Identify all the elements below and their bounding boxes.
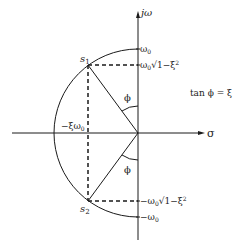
s2-label: s2 <box>80 203 90 216</box>
neg-omega0-label: −ω0 <box>140 212 159 223</box>
damped-upper-label: ω0√1−ξ2 <box>140 59 179 71</box>
angle-upper-label: ϕ <box>124 92 131 103</box>
angle-lower-label: ϕ <box>124 164 131 175</box>
damped-lower-label: −ω0√1−ξ2 <box>140 195 187 207</box>
s1-label: s1 <box>80 53 90 66</box>
real-axis-arrow-icon <box>198 131 205 135</box>
angle-arc-upper <box>122 106 138 111</box>
imaginary-axis-arrow-icon <box>136 11 140 18</box>
s-plane-diagram: jω σ s1 s2 ω0 ω0√1−ξ2 −ω0√1−ξ2 −ω0 −ξω0 … <box>0 0 234 249</box>
damping-equation: tan ϕ = ξ <box>190 88 232 98</box>
omega0-label: ω0 <box>140 44 151 55</box>
imaginary-axis-label: jω <box>139 7 152 18</box>
angle-arc-lower <box>122 155 138 160</box>
real-part-label: −ξω0 <box>61 121 85 132</box>
real-axis-label: σ <box>207 127 215 140</box>
